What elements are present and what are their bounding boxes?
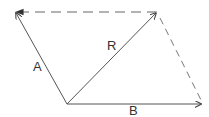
label-a: A xyxy=(33,59,42,74)
vector-diagram: A R B xyxy=(0,0,209,117)
vector-r xyxy=(67,13,156,104)
label-b: B xyxy=(129,103,138,117)
dashed-right-side xyxy=(160,18,202,102)
label-r: R xyxy=(107,38,116,53)
